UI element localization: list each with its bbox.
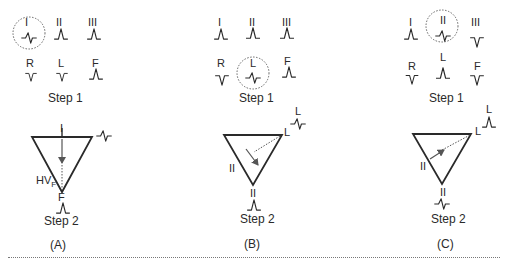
wave-inverted-icon (406, 76, 419, 85)
triangle-top-label: I (60, 123, 63, 134)
lead-label-r: R (217, 58, 225, 69)
wave-inverted-icon (470, 38, 484, 47)
corner-wave-label: L (295, 106, 301, 117)
triangle-side-label: II (229, 163, 235, 174)
step1-label: Step 1 (429, 93, 464, 104)
step1-label: Step 1 (239, 93, 274, 104)
lead-label-l: L (58, 58, 64, 69)
step2-label: Step 2 (44, 216, 79, 227)
lead-label-l: L (440, 52, 446, 63)
triangle-side-label: II (420, 161, 426, 172)
lead-label-ii: II (56, 17, 62, 28)
wave-biphasic-icon (434, 199, 449, 209)
lead-label-i: I (25, 17, 28, 28)
wave-upright-icon (214, 29, 228, 39)
panel-b-triangle (224, 119, 306, 210)
lead-label-iii: III (282, 17, 291, 28)
bottom-dotted-divider (8, 257, 500, 258)
step1-label: Step 1 (48, 93, 83, 104)
lead-label-i: I (218, 17, 221, 28)
lead-label-r: R (26, 58, 34, 69)
triangle-corner-label: L (475, 126, 481, 137)
panel-caption: (C) (437, 239, 454, 250)
wave-upright-icon (89, 69, 103, 79)
lead-label-iii: III (88, 17, 97, 28)
triangle-bottom-label: II (250, 188, 256, 199)
lead-label-ii: II (249, 17, 255, 28)
panel-caption: (B) (244, 239, 260, 250)
lead-label-f: F (92, 58, 99, 69)
wave-upright-icon (482, 117, 496, 127)
panel-caption: (A) (50, 240, 66, 251)
wave-upright-icon (246, 28, 260, 39)
lead-label-l: L (250, 58, 256, 69)
wave-upright-icon (54, 29, 68, 39)
wave-biphasic-icon (96, 131, 111, 141)
wave-upright-icon (247, 200, 261, 210)
wave-inverted-icon (470, 76, 484, 85)
wave-upright-icon (280, 28, 294, 39)
wave-biphasic-icon (290, 119, 305, 129)
triangle-corner-label: L (284, 127, 290, 138)
corner-wave-label: L (486, 104, 492, 115)
triangle-bottom-label: II (440, 187, 446, 198)
wave-upright-icon (282, 67, 296, 77)
wave-inverted-icon (215, 76, 229, 85)
triangle-side-label: HVF (36, 175, 56, 190)
step2-label: Step 2 (240, 214, 275, 225)
wave-biphasic-icon (21, 33, 36, 43)
highlight-circle-lead-i (13, 17, 45, 49)
lead-label-r: R (408, 61, 416, 72)
wave-inverted-icon (56, 73, 67, 81)
lead-label-f: F (284, 56, 291, 67)
wave-upright-icon (56, 203, 70, 213)
wave-inverted-icon (25, 73, 36, 81)
wave-biphasic-icon (245, 73, 260, 83)
lead-label-iii: III (471, 17, 480, 28)
wave-upright-icon (87, 29, 101, 39)
wave-biphasic-icon (435, 31, 450, 41)
lead-label-ii: II (440, 15, 446, 26)
lead-label-f: F (474, 61, 481, 72)
lead-label-i: I (409, 17, 412, 28)
panel-a-triangle (32, 128, 112, 213)
wave-upright-icon (436, 68, 450, 79)
step2-label: Step 2 (431, 214, 466, 225)
triangle-bottom-label: F (58, 192, 65, 203)
wave-upright-icon (404, 29, 418, 39)
